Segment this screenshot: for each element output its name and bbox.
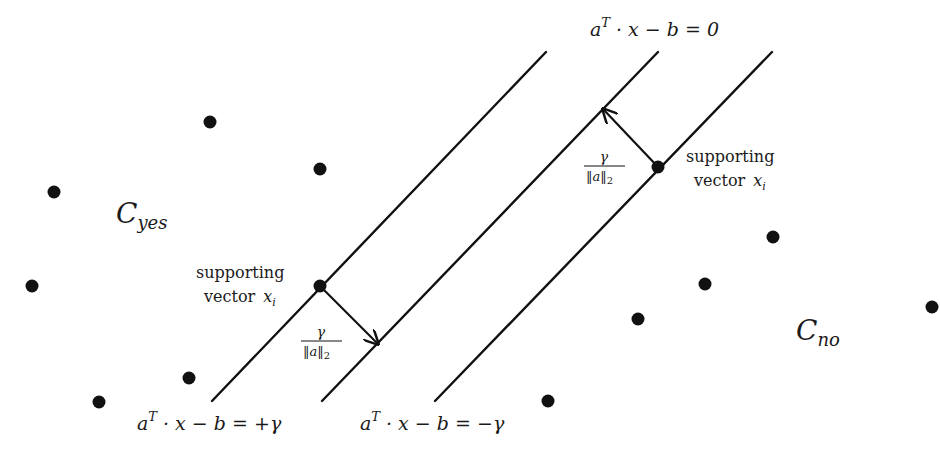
class-yes-point: [26, 280, 39, 293]
diagram-svg: aT · x − b = 0 aT · x − b = +γ aT · x − …: [0, 0, 940, 461]
svg-text:γ: γ: [600, 149, 609, 165]
class-no-point: [542, 395, 555, 408]
support-vector-right-line2: vectorxi: [693, 171, 766, 193]
margin-fraction-right: γ ‖a‖2: [584, 149, 625, 186]
svm-diagram: aT · x − b = 0 aT · x − b = +γ aT · x − …: [0, 0, 940, 461]
hyperplanes: [212, 52, 772, 401]
support-vector-left-line2: vectorxi: [203, 287, 276, 309]
support-vector-point: [314, 280, 327, 293]
support-vector-right-line1: supporting: [686, 147, 774, 166]
class-yes-point: [204, 116, 217, 129]
decision-boundary-line: [322, 52, 658, 401]
svg-text:‖a‖2: ‖a‖2: [303, 344, 330, 361]
class-no-label: Cno: [796, 314, 840, 350]
right-margin-arrow: [603, 109, 658, 167]
left-margin-arrow: [320, 286, 378, 344]
plus-margin-equation: aT · x − b = +γ: [137, 409, 282, 434]
class-no-point: [632, 313, 645, 326]
negative-margin-line: [435, 52, 772, 401]
svg-text:‖a‖2: ‖a‖2: [586, 169, 613, 186]
boundary-equation: aT · x − b = 0: [590, 15, 719, 40]
margin-fraction-left: γ ‖a‖2: [301, 324, 342, 361]
positive-margin-line: [212, 52, 546, 401]
class-yes-point: [93, 396, 106, 409]
class-no-points: [542, 231, 939, 408]
class-no-point: [926, 301, 939, 314]
class-yes-point: [314, 163, 327, 176]
class-yes-label: Cyes: [116, 197, 168, 233]
svg-text:γ: γ: [317, 324, 326, 340]
class-no-point: [699, 278, 712, 291]
class-yes-point: [183, 372, 196, 385]
minus-margin-equation: aT · x − b = −γ: [360, 409, 505, 434]
support-vector-point: [652, 161, 665, 174]
class-yes-point: [48, 186, 61, 199]
class-no-point: [767, 231, 780, 244]
support-vector-left-line1: supporting: [196, 263, 284, 282]
class-yes-points: [26, 116, 327, 409]
